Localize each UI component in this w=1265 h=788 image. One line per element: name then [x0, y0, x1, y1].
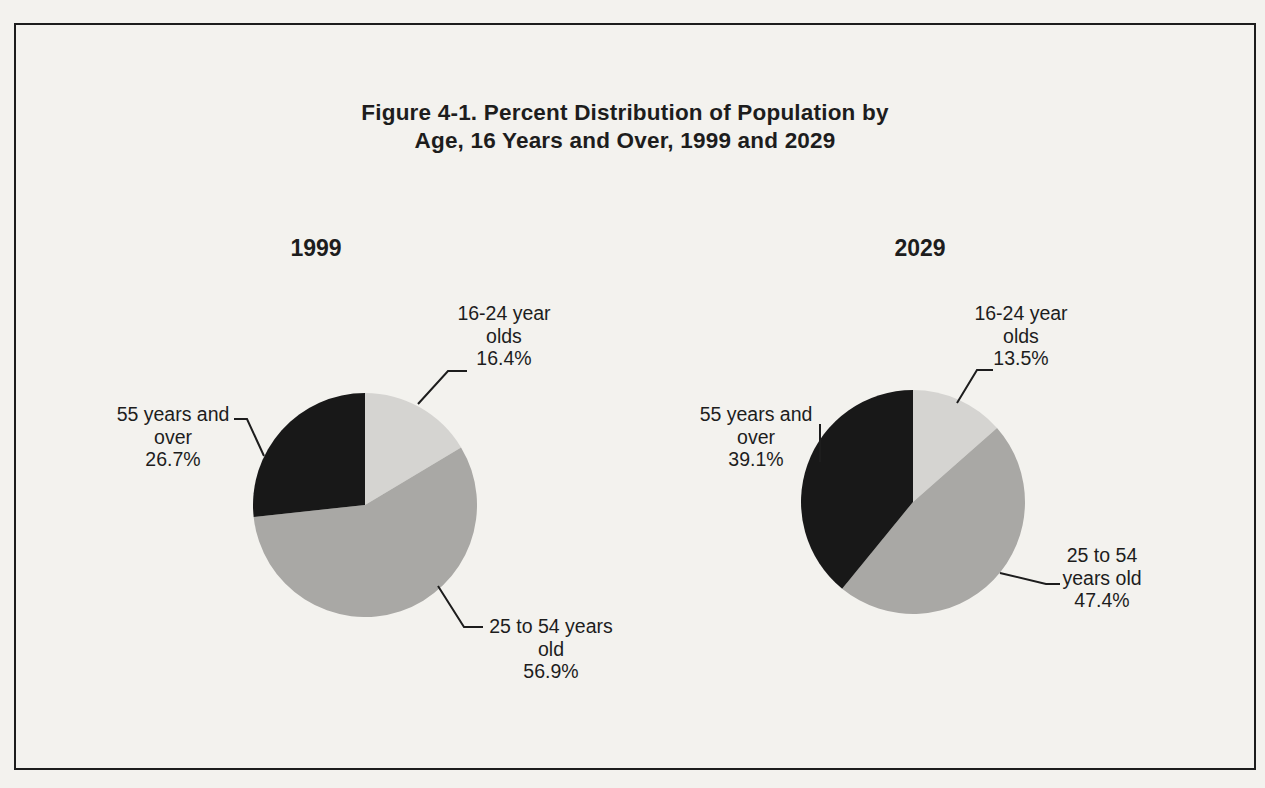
label-line: 16-24 year [974, 302, 1067, 325]
label-line: 55 years and [700, 403, 813, 426]
pie-chart-1999 [253, 393, 477, 617]
label-value: 56.9% [489, 660, 613, 683]
label-value: 13.5% [974, 347, 1067, 370]
label-2029-25-to-54: 25 to 54 years old 47.4% [1062, 544, 1141, 612]
label-line: 25 to 54 [1062, 544, 1141, 567]
label-line: 16-24 year [457, 302, 550, 325]
label-1999-16-24-year-olds: 16-24 year olds 16.4% [457, 302, 550, 370]
label-1999-25-to-54: 25 to 54 years old 56.9% [489, 615, 613, 683]
label-line: olds [974, 325, 1067, 348]
label-2029-16-24-year-olds: 16-24 year olds 13.5% [974, 302, 1067, 370]
label-2029-55-and-over: 55 years and over 39.1% [700, 403, 813, 471]
label-value: 16.4% [457, 347, 550, 370]
chart-title-2029: 2029 [894, 235, 945, 262]
chart-title-1999: 1999 [290, 235, 341, 262]
label-line: years old [1062, 567, 1141, 590]
label-line: olds [457, 325, 550, 348]
figure-title-line1: Figure 4-1. Percent Distribution of Popu… [361, 99, 888, 127]
label-line: over [117, 426, 230, 449]
label-line: 55 years and [117, 403, 230, 426]
label-line: 25 to 54 years [489, 615, 613, 638]
pie-chart-2029 [801, 390, 1025, 614]
label-line: over [700, 426, 813, 449]
scanned-page: Figure 4-1. Percent Distribution of Popu… [0, 0, 1265, 788]
label-value: 47.4% [1062, 589, 1141, 612]
figure-title: Figure 4-1. Percent Distribution of Popu… [361, 99, 888, 155]
label-line: old [489, 638, 613, 661]
figure-title-line2: Age, 16 Years and Over, 1999 and 2029 [361, 127, 888, 155]
pie-slice-1999-2 [253, 393, 365, 517]
label-value: 39.1% [700, 448, 813, 471]
label-1999-55-and-over: 55 years and over 26.7% [117, 403, 230, 471]
label-value: 26.7% [117, 448, 230, 471]
